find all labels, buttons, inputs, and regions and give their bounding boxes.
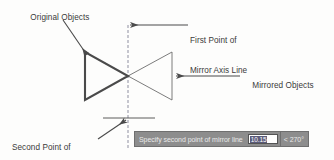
label-second-point-of-mirror-axis-line: Second Point of Mirror Axis Line [12, 123, 71, 160]
distance-input-value: 10.15 [250, 136, 268, 143]
command-prompt-text: Specify second point of mirror line [135, 132, 248, 146]
mirror-command-diagram: Original Objects First Point of Mirror A… [0, 0, 334, 160]
label-mirrored-objects-text: Mirrored Objects [252, 81, 313, 90]
distance-input-field[interactable]: 10.15 [248, 134, 278, 144]
label-first-point-line1: First Point of [190, 36, 247, 46]
label-first-point-line2: Mirror Axis Line [190, 66, 247, 76]
label-original-objects: Original Objects [21, 3, 89, 33]
label-first-point-of-mirror-axis-line: First Point of Mirror Axis Line [190, 16, 247, 96]
original-triangle [85, 52, 128, 100]
command-prompt-bar[interactable]: Specify second point of mirror line 10.1… [134, 131, 309, 147]
label-original-objects-text: Original Objects [30, 13, 89, 22]
label-second-point-line1: Second Point of [12, 143, 71, 153]
mirrored-triangle [128, 52, 172, 100]
angle-readout-field[interactable]: < 270° [280, 132, 308, 146]
leader-second-point [98, 120, 126, 139]
label-mirrored-objects: Mirrored Objects [243, 71, 314, 101]
